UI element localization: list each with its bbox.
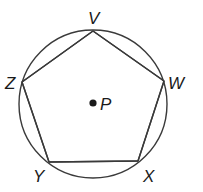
vertex-label-x: X	[142, 167, 155, 186]
vertex-label-v: V	[88, 9, 101, 28]
side-xy	[49, 161, 138, 162]
center-point-p	[89, 99, 96, 106]
inscribed-pentagon-diagram: V W X Y Z P	[0, 0, 203, 192]
vertex-label-w: W	[168, 74, 186, 93]
pentagon-vwxyz	[22, 31, 164, 162]
vertex-label-z: Z	[4, 74, 16, 93]
vertex-label-y: Y	[33, 167, 46, 186]
center-label-p: P	[100, 95, 112, 114]
